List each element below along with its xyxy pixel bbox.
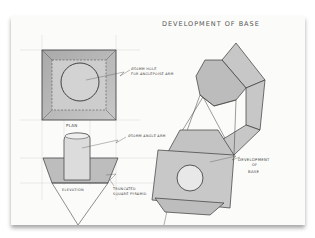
hole-note-2: for anglepoise arm bbox=[131, 72, 174, 76]
arm-note: Ø50mm angle arm bbox=[128, 134, 166, 138]
hole-note-1: Ø50mm hole bbox=[131, 67, 157, 71]
technical-drawing bbox=[0, 0, 315, 238]
drawing-title: Development of Base bbox=[162, 20, 260, 28]
plan-label: Plan bbox=[66, 123, 78, 128]
development-label-2: of bbox=[252, 163, 257, 167]
development-label-1: Development bbox=[238, 157, 270, 162]
development-label-3: Base bbox=[248, 169, 259, 174]
frustum-note-1: Truncated bbox=[113, 187, 136, 191]
plan-view bbox=[42, 50, 130, 120]
frustum-note-2: square pyramid bbox=[113, 192, 147, 196]
development-net bbox=[152, 43, 265, 225]
elevation-view bbox=[43, 133, 126, 225]
elevation-label: Elevation bbox=[62, 188, 84, 192]
